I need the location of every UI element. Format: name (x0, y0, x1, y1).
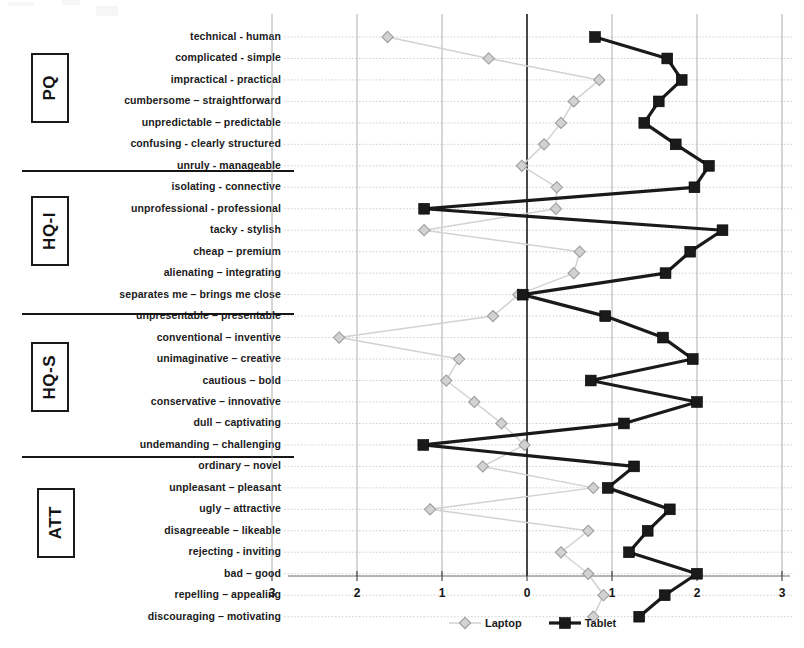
scan-artifact (62, 0, 80, 5)
data-point-tablet (419, 203, 430, 214)
data-point-laptop (568, 268, 579, 279)
data-point-laptop (477, 461, 488, 472)
group-separator (22, 313, 294, 315)
group-label-pq: PQ (40, 75, 60, 101)
scale-label: cumbersome – straightforward (124, 94, 281, 106)
data-point-laptop (550, 203, 561, 214)
group-box-hqs: HQ-S (31, 342, 69, 412)
data-point-tablet (692, 397, 703, 408)
data-point-laptop (382, 31, 393, 42)
scale-label: disagreeable – likeable (164, 524, 281, 536)
scale-label: unpredictable – predictable (142, 116, 281, 128)
scale-label: ordinary – novel (198, 459, 281, 471)
data-point-laptop (425, 504, 436, 515)
x-tick-label: 2 (685, 586, 709, 600)
data-point-tablet (689, 182, 700, 193)
scale-label: cautious – bold (202, 374, 281, 386)
x-tick-label: 1 (430, 586, 454, 600)
series-line-tablet (423, 37, 722, 617)
ux-scale-profile-chart: PQ HQ-I HQ-S ATT technical - humancompli… (0, 0, 804, 648)
data-point-laptop (588, 482, 599, 493)
data-point-tablet (659, 590, 670, 601)
data-point-tablet (517, 289, 528, 300)
scale-label: unpleasant – pleasant (169, 481, 281, 493)
scale-label: isolating - connective (171, 180, 281, 192)
scale-label: unimaginative – creative (157, 352, 281, 364)
data-point-laptop (574, 246, 585, 257)
scale-label: confusing - clearly structured (130, 137, 281, 149)
scale-label: undemanding – challenging (140, 438, 281, 450)
x-tick-label: 0 (515, 586, 539, 600)
data-point-tablet (590, 32, 601, 43)
scale-label: technical - human (190, 30, 281, 42)
data-point-tablet (687, 354, 698, 365)
scale-label: unprofessional - professional (131, 202, 281, 214)
data-point-laptop (483, 53, 494, 64)
data-point-tablet (670, 139, 681, 150)
group-box-hqi: HQ-I (31, 196, 69, 266)
scale-label: unruly - manageable (177, 159, 281, 171)
data-point-tablet (619, 418, 630, 429)
chart-legend: LaptopTablet (448, 616, 616, 630)
data-point-tablet (585, 375, 596, 386)
data-point-tablet (660, 268, 671, 279)
group-label-att: ATT (46, 506, 66, 539)
scale-label: impractical - practical (171, 73, 281, 85)
plot-area (284, 14, 794, 604)
data-point-tablet (692, 568, 703, 579)
x-tick-label: 3 (260, 586, 284, 600)
data-point-laptop (334, 332, 345, 343)
legend-label: Tablet (585, 617, 617, 629)
scale-label: conventional – inventive (157, 331, 281, 343)
scale-label: conservative – innovative (151, 395, 281, 407)
legend-label: Laptop (485, 617, 522, 629)
group-separator (22, 456, 294, 458)
data-point-tablet (639, 117, 650, 128)
data-point-laptop (453, 353, 464, 364)
scan-artifact (8, 2, 34, 6)
scale-label: unpresentable – presentable (136, 309, 281, 321)
scale-label: rejecting - inviting (189, 545, 281, 557)
group-separator (22, 170, 294, 172)
data-point-tablet (658, 332, 669, 343)
scale-label: dull – captivating (193, 416, 281, 428)
scale-label: cheap – premium (193, 245, 281, 257)
data-point-tablet (624, 547, 635, 558)
data-point-tablet (717, 225, 728, 236)
scale-label: alienating – integrating (164, 266, 281, 278)
data-point-tablet (653, 96, 664, 107)
data-point-laptop (551, 182, 562, 193)
legend-entry-tablet[interactable]: Tablet (548, 616, 617, 630)
data-point-tablet (685, 246, 696, 257)
x-tick-label: 3 (770, 586, 794, 600)
data-point-tablet (704, 160, 715, 171)
data-point-tablet (642, 525, 653, 536)
scale-label: separates me – brings me close (119, 288, 281, 300)
data-point-tablet (664, 504, 675, 515)
group-label-hqi: HQ-I (40, 212, 60, 250)
data-point-tablet (662, 53, 673, 64)
scan-artifact (96, 6, 118, 16)
x-tick-label: 1 (600, 586, 624, 600)
group-box-att: ATT (37, 488, 75, 558)
scale-label: complicated - simple (175, 51, 281, 63)
data-point-tablet (634, 611, 645, 622)
legend-marker-diamond-icon (448, 616, 482, 630)
x-tick-label: 2 (345, 586, 369, 600)
legend-entry-laptop[interactable]: Laptop (448, 616, 522, 630)
data-point-laptop (419, 225, 430, 236)
data-point-tablet (600, 311, 611, 322)
scale-label: tacky - stylish (210, 223, 281, 235)
data-point-tablet (602, 482, 613, 493)
data-point-tablet (676, 75, 687, 86)
group-label-hqs: HQ-S (40, 355, 60, 400)
data-point-tablet (418, 440, 429, 451)
group-box-pq: PQ (31, 53, 69, 123)
legend-marker-square-icon (548, 616, 582, 630)
data-point-tablet (629, 461, 640, 472)
scale-label: ugly – attractive (199, 502, 281, 514)
scale-label: discouraging – motivating (148, 610, 281, 622)
